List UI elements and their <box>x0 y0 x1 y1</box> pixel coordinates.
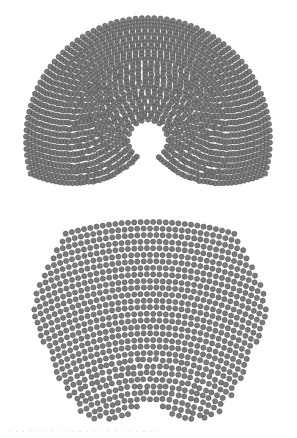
seat-dot <box>154 377 159 382</box>
seat-dot <box>182 373 187 378</box>
seat-dot <box>219 351 224 356</box>
seat-dot <box>58 331 63 336</box>
seat-dot <box>141 396 146 401</box>
seat-dot <box>154 305 159 310</box>
seat-dot <box>188 349 193 354</box>
seat-dot <box>79 343 84 348</box>
seat-dot <box>40 295 45 300</box>
seat-dot <box>135 252 140 257</box>
seat-dot <box>151 246 156 251</box>
seat-dot <box>125 312 130 317</box>
seat-dot <box>198 257 203 262</box>
seat-dot <box>157 246 162 251</box>
seat-dot <box>229 393 234 398</box>
seat-dot <box>160 377 165 382</box>
seat-dot <box>243 263 248 268</box>
seat-dot <box>52 312 57 317</box>
seat-dot <box>107 396 112 401</box>
seat-dot <box>240 275 245 280</box>
seat-dot <box>244 356 249 361</box>
seat-dot <box>225 257 230 262</box>
seat-dot <box>204 305 209 310</box>
seat-dot <box>235 239 240 244</box>
seat-dot <box>151 239 156 244</box>
seat-dot <box>47 343 52 348</box>
seat-dot <box>85 286 90 291</box>
seat-dot <box>145 364 150 369</box>
seat-dot <box>100 343 105 348</box>
seat-dot <box>91 332 96 337</box>
seat-dot <box>154 233 159 238</box>
seat-dot <box>206 113 211 118</box>
seat-dot <box>110 235 115 240</box>
seat-dot <box>237 309 242 314</box>
seat-dot <box>179 287 184 292</box>
seat-dot <box>72 311 77 316</box>
seat-dot <box>118 386 123 391</box>
seat-dot <box>189 315 194 320</box>
seat-dot <box>144 337 149 342</box>
seat-dot <box>97 257 102 262</box>
seat-dot <box>107 416 112 421</box>
seat-dot <box>178 407 183 412</box>
seat-dot <box>112 415 117 420</box>
seat-dot <box>141 331 146 336</box>
seat-dot <box>40 288 45 293</box>
seat-dot <box>35 320 40 325</box>
seat-dot <box>182 388 187 393</box>
seat-dot <box>166 405 171 410</box>
seat-dot <box>51 356 56 361</box>
seat-dot <box>76 282 81 287</box>
seat-dot <box>210 287 215 292</box>
seat-dot <box>138 318 143 323</box>
seat-dot <box>138 220 143 225</box>
seat-dot <box>261 291 266 296</box>
seat-dot <box>198 230 203 235</box>
seat-dot <box>194 350 199 355</box>
seat-dot <box>141 298 146 303</box>
seat-dot <box>85 391 90 396</box>
seat-dot <box>209 103 214 108</box>
seat-dot <box>109 381 114 386</box>
seat-dot <box>51 283 56 288</box>
seat-dot <box>122 306 127 311</box>
seat-dot <box>107 369 112 374</box>
seat-dot <box>37 304 42 309</box>
seat-dot <box>67 320 72 325</box>
seat-dot <box>158 16 163 21</box>
seat-dot <box>35 85 40 90</box>
seat-dot <box>245 349 250 354</box>
seat-dot <box>100 276 105 281</box>
seat-dot <box>202 93 207 98</box>
seat-dot <box>98 364 103 369</box>
seat-dot <box>195 296 200 301</box>
seat-dot <box>211 34 216 39</box>
seat-dot <box>176 393 181 398</box>
seat-diagram-canvas <box>0 0 297 438</box>
seat-dot <box>122 234 127 239</box>
seat-dot <box>94 373 99 378</box>
seat-dot <box>209 412 214 417</box>
seat-dot <box>160 396 165 401</box>
seat-dot <box>173 326 178 331</box>
seat-dot <box>44 308 49 313</box>
seat-dot <box>41 74 46 79</box>
seat-dot <box>70 305 75 310</box>
seat-dot <box>144 265 149 270</box>
seat-dot <box>179 228 184 233</box>
seat-dot <box>144 292 149 297</box>
seat-dot <box>207 347 212 352</box>
seat-dot <box>117 380 122 385</box>
seat-dot <box>216 38 221 43</box>
seat-dot <box>170 18 175 23</box>
seat-dot <box>116 254 121 259</box>
seat-dot <box>129 286 134 291</box>
seat-dot <box>94 244 99 249</box>
seat-dot <box>135 357 140 362</box>
seat-dot <box>212 356 217 361</box>
seat-dot <box>88 396 93 401</box>
seat-dot <box>185 381 190 386</box>
seat-dot <box>119 373 124 378</box>
seat-dot <box>198 358 203 363</box>
seat-dot <box>219 282 224 287</box>
